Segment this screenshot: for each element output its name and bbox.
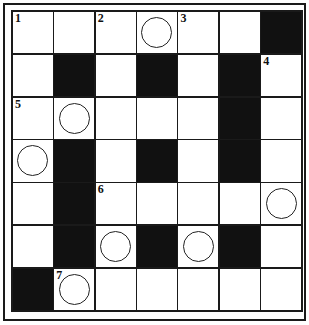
grid-cell[interactable] xyxy=(137,269,177,310)
black-cell xyxy=(54,55,94,96)
grid-cell[interactable] xyxy=(96,226,136,267)
grid-cell[interactable]: 7 xyxy=(54,269,94,310)
clue-number: 3 xyxy=(180,12,186,24)
grid-cell[interactable] xyxy=(261,226,301,267)
grid-cell[interactable] xyxy=(96,140,136,181)
grid-cell[interactable] xyxy=(220,183,260,224)
circle-icon xyxy=(141,17,172,48)
circle-icon xyxy=(17,145,48,176)
grid-cell[interactable]: 4 xyxy=(261,55,301,96)
black-cell xyxy=(54,226,94,267)
grid-cell[interactable] xyxy=(220,269,260,310)
grid-cell[interactable]: 3 xyxy=(178,12,218,53)
grid-cell[interactable] xyxy=(96,55,136,96)
grid-cell[interactable] xyxy=(261,98,301,139)
grid-cell[interactable]: 1 xyxy=(13,12,53,53)
grid-cell[interactable] xyxy=(178,226,218,267)
black-cell xyxy=(54,140,94,181)
grid-cell[interactable] xyxy=(178,98,218,139)
grid-cell[interactable] xyxy=(178,183,218,224)
grid-cell[interactable] xyxy=(96,98,136,139)
grid-cell[interactable] xyxy=(13,140,53,181)
black-cell xyxy=(220,55,260,96)
black-cell xyxy=(137,226,177,267)
grid-cell[interactable] xyxy=(13,226,53,267)
grid-cell[interactable] xyxy=(178,140,218,181)
black-cell xyxy=(261,12,301,53)
black-cell xyxy=(220,98,260,139)
black-cell xyxy=(137,140,177,181)
grid-cell[interactable] xyxy=(137,12,177,53)
grid-cell[interactable] xyxy=(54,12,94,53)
grid-cell[interactable] xyxy=(178,55,218,96)
black-cell xyxy=(13,269,53,310)
grid-cell[interactable] xyxy=(220,12,260,53)
grid-cell[interactable] xyxy=(13,183,53,224)
grid-cell[interactable] xyxy=(13,55,53,96)
circle-icon xyxy=(59,274,90,305)
grid-cell[interactable] xyxy=(261,269,301,310)
clue-number: 2 xyxy=(98,12,104,24)
grid-cell[interactable]: 2 xyxy=(96,12,136,53)
circle-icon xyxy=(266,188,297,219)
clue-number: 4 xyxy=(263,55,269,67)
grid-cell[interactable]: 5 xyxy=(13,98,53,139)
black-cell xyxy=(54,183,94,224)
grid-cell[interactable] xyxy=(178,269,218,310)
grid-cell[interactable] xyxy=(261,183,301,224)
circle-icon xyxy=(59,103,90,134)
circle-icon xyxy=(100,231,131,262)
clue-number: 5 xyxy=(15,98,21,110)
clue-number: 6 xyxy=(98,183,104,195)
grid-cell[interactable] xyxy=(137,98,177,139)
clue-number: 1 xyxy=(15,12,21,24)
black-cell xyxy=(220,140,260,181)
grid-cell[interactable] xyxy=(137,183,177,224)
black-cell xyxy=(137,55,177,96)
crossword-grid: 1234567 xyxy=(11,10,303,312)
grid-cell[interactable] xyxy=(261,140,301,181)
grid-cell[interactable]: 6 xyxy=(96,183,136,224)
grid-cell[interactable] xyxy=(96,269,136,310)
black-cell xyxy=(220,226,260,267)
grid-cell[interactable] xyxy=(54,98,94,139)
circle-icon xyxy=(183,231,214,262)
